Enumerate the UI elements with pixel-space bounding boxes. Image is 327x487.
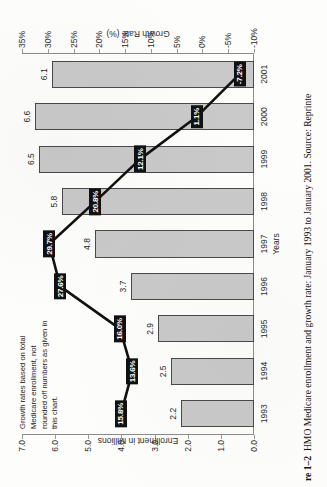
y-axis-left-tick — [88, 435, 89, 439]
y-axis-right-tick-label: 30% — [43, 31, 53, 48]
x-axis-tick-label: 1998 — [259, 192, 269, 211]
y-axis-left-tick-label: 7.0 — [17, 440, 27, 452]
x-axis-tick-label: 1995 — [259, 319, 269, 338]
chart-stage: 7.06.05.04.03.02.01.00.0 35%30%25%20%15%… — [0, 0, 327, 487]
y-axis-right-tick — [254, 49, 255, 53]
x-axis-tick-label: 2001 — [259, 65, 269, 84]
y-axis-right-tick-label: 5% — [172, 36, 182, 48]
x-axis-title: Years — [271, 233, 281, 254]
y-axis-right-tick-label: -10% — [249, 28, 259, 48]
figure-number: re 1–2 — [302, 456, 313, 481]
growth-rate-point-label: 15.8% — [115, 400, 127, 427]
growth-rate-line-path — [49, 74, 239, 414]
y-axis-left-tick — [254, 435, 255, 439]
x-axis-tick-label: 1993 — [259, 404, 269, 423]
x-axis-tick-label: 2000 — [259, 107, 269, 126]
y-axis-left-tick — [188, 435, 189, 439]
chart-note: Growth rates based on total Medicare enr… — [18, 317, 61, 429]
y-axis-left-tick-label: 1.0 — [216, 440, 226, 452]
growth-rate-point-label: 1.1% — [191, 105, 203, 127]
y-axis-right-tick-label: 35% — [17, 31, 27, 48]
x-axis-tick-label: 1996 — [259, 277, 269, 296]
y-axis-left-tick-label: 6.0 — [50, 440, 60, 452]
y-axis-left-tick-label: 5.0 — [83, 440, 93, 452]
y-axis-right-tick-label: 20% — [94, 31, 104, 48]
growth-rate-point-label: 27.6% — [54, 273, 66, 300]
figure-page: 7.06.05.04.03.02.01.00.0 35%30%25%20%15%… — [0, 0, 327, 487]
y-axis-right-title: Growth Rate (%) — [106, 30, 169, 40]
plot-area: 7.06.05.04.03.02.01.00.0 35%30%25%20%15%… — [22, 53, 254, 435]
figure-caption-text: HMO Medicare enrollment and growth rate:… — [302, 94, 313, 451]
figure-caption: re 1–2 HMO Medicare enrollment and growt… — [302, 94, 313, 481]
y-axis-left-title: Enrollment in Millions — [98, 436, 178, 446]
y-axis-right-tick-label: 0% — [197, 36, 207, 48]
growth-rate-point-label: 16.0% — [114, 316, 126, 343]
x-axis-tick-label: 1994 — [259, 362, 269, 381]
growth-rate-point-label: -7.2% — [234, 62, 246, 87]
y-axis-left-tick — [55, 435, 56, 439]
x-axis-tick-label: 1999 — [259, 150, 269, 169]
y-axis-left-tick-label: 0.0 — [249, 440, 259, 452]
x-axis-tick-label: 1997 — [259, 235, 269, 254]
y-axis-right-tick-label: -5% — [223, 33, 233, 48]
y-axis-left-tick — [22, 435, 23, 439]
growth-rate-point-label: 29.7% — [43, 231, 55, 258]
y-axis-left-tick-label: 2.0 — [183, 440, 193, 452]
growth-rate-point-label: 20.8% — [89, 188, 101, 215]
growth-rate-point-label: 13.6% — [126, 358, 138, 385]
y-axis-right-tick-label: 25% — [69, 31, 79, 48]
growth-rate-point-label: 12.1% — [134, 146, 146, 173]
y-axis-left-tick — [221, 435, 222, 439]
